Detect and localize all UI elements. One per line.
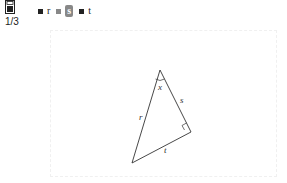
triangle-diagram: x s r t bbox=[0, 0, 287, 183]
side-label-s: s bbox=[180, 95, 184, 105]
angle-label: x bbox=[157, 82, 162, 92]
side-label-r: r bbox=[139, 112, 143, 122]
right-angle-marker-icon bbox=[182, 123, 187, 130]
side-label-t: t bbox=[164, 145, 167, 155]
